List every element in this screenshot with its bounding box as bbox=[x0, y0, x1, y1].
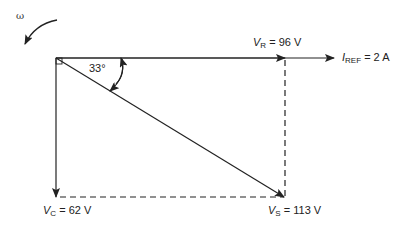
vr-sub: R bbox=[260, 41, 266, 50]
iref-label: IREF = 2 A bbox=[342, 51, 390, 65]
rotation-label: ω bbox=[16, 10, 24, 21]
vc-label: VC = 62 V bbox=[43, 204, 91, 218]
vr-label: VR = 96 V bbox=[253, 36, 301, 50]
angle-label: 33° bbox=[89, 62, 106, 74]
iref-sub: REF bbox=[345, 56, 361, 65]
rotation-arrow-icon bbox=[25, 20, 57, 44]
angle-arc-icon bbox=[110, 58, 123, 91]
vs-vector bbox=[56, 58, 284, 197]
vs-label: VS = 113 V bbox=[268, 204, 321, 218]
iref-value: = 2 A bbox=[364, 51, 389, 63]
vs-value: = 113 V bbox=[284, 204, 321, 216]
phasor-diagram bbox=[0, 0, 410, 232]
vc-value: = 62 V bbox=[59, 204, 91, 216]
vc-sub: C bbox=[50, 209, 56, 218]
vr-value: = 96 V bbox=[269, 36, 301, 48]
vs-sub: S bbox=[275, 209, 280, 218]
